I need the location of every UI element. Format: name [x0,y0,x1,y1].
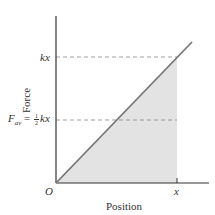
fav-kx: kx [40,112,50,124]
origin-label: O [45,186,53,197]
one-half-fraction: 12 [34,113,39,126]
fav-tick-label: Fav = 12kx [8,113,50,127]
fav-equals: = [21,112,33,124]
y-axis-label: Force [21,88,32,113]
x-axis-label: Position [106,201,142,212]
force-position-diagram [0,0,215,215]
fav-symbol: F [8,112,15,124]
x-tick-label: x [174,186,179,197]
kx-tick-label: kx [40,52,50,63]
